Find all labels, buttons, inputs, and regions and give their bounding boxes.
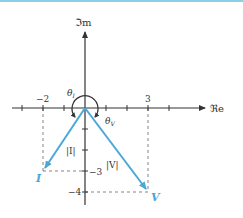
phasor-diagram: ℑm ℜe −2 3 −3 −4 θI θV |I| |V| I V xyxy=(0,0,243,218)
magnitude-i-label: |I| xyxy=(66,146,76,157)
vector-i xyxy=(45,108,85,168)
real-axis-label: ℜe xyxy=(210,103,224,114)
theta-v-label: θV xyxy=(105,116,115,127)
magnitude-v-label: |V| xyxy=(106,160,119,171)
theta-v-arc xyxy=(95,108,98,117)
imaginary-axis-label: ℑm xyxy=(75,17,92,28)
y-tick-label-neg3: −3 xyxy=(89,167,103,177)
theta-i-label: θI xyxy=(67,88,75,99)
x-tick-label-neg2: −2 xyxy=(36,94,49,104)
x-tick-label-3: 3 xyxy=(145,94,151,104)
vector-v-label: V xyxy=(151,191,161,204)
vector-i-label: I xyxy=(35,172,42,185)
y-tick-label-neg4: −4 xyxy=(68,187,82,197)
